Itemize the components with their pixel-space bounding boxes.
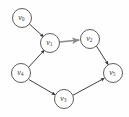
nodes-layer: v0v1v2v5v4v3 bbox=[12, 9, 123, 109]
node-label-subscript-v3: 3 bbox=[64, 98, 67, 104]
graph-canvas: v0v1v2v5v4v3 bbox=[0, 0, 129, 117]
graph-edge-v3-to-v5 bbox=[73, 78, 104, 95]
graph-edge-v4-to-v3 bbox=[29, 80, 55, 95]
node-label-subscript-v5: 5 bbox=[113, 72, 116, 78]
graph-node-v1: v1 bbox=[41, 34, 60, 53]
graph-edge-v2-to-v5 bbox=[96, 46, 108, 65]
graph-node-v0: v0 bbox=[13, 9, 32, 28]
graph-node-v3: v3 bbox=[55, 90, 74, 109]
node-label-subscript-v4: 4 bbox=[21, 72, 24, 78]
directed-graph-figure: v0v1v2v5v4v3 bbox=[0, 0, 129, 117]
graph-node-v4: v4 bbox=[12, 64, 31, 83]
node-label-subscript-v1: 1 bbox=[50, 42, 53, 48]
node-label-subscript-v2: 2 bbox=[90, 38, 93, 44]
graph-node-v2: v2 bbox=[81, 30, 100, 49]
node-label-subscript-v0: 0 bbox=[22, 17, 25, 23]
graph-edge-v4-to-v1 bbox=[29, 50, 45, 67]
graph-edge-v1-to-v2 bbox=[60, 40, 80, 42]
graph-node-v5: v5 bbox=[104, 64, 123, 83]
graph-edge-v0-to-v1 bbox=[29, 24, 43, 37]
